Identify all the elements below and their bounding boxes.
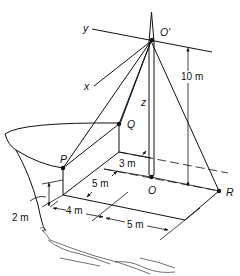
dimension-5m-side: 5 m <box>87 171 117 197</box>
point-r <box>217 189 221 193</box>
deck-depth-label: 3 m <box>119 158 136 169</box>
span-left-label: 4 m <box>66 205 83 216</box>
points <box>61 38 221 193</box>
span-right-label: 5 m <box>127 219 144 230</box>
point-o-prime <box>150 38 154 42</box>
label-r: R <box>226 186 234 198</box>
label-q: Q <box>127 118 135 130</box>
dimension-3m: 3 m <box>104 151 151 177</box>
side-depth-label: 5 m <box>92 178 109 189</box>
mast-height-label: 10 m <box>181 71 203 82</box>
dimension-bottom: 4 m 5 m <box>50 192 200 240</box>
label-p: P <box>60 153 67 165</box>
x-axis: x <box>83 42 150 92</box>
z-axis-label: z <box>140 96 147 108</box>
label-o: O <box>148 184 156 196</box>
mast <box>149 12 154 177</box>
mast-diagram: y x z 10 m 3 m 5 m 2 m <box>0 0 240 276</box>
ground-sketch <box>40 227 175 274</box>
x-axis-label: x <box>83 80 90 92</box>
label-o-prime: O′ <box>160 26 171 38</box>
point-p <box>61 166 65 170</box>
guy-cables <box>63 41 219 191</box>
point-o <box>149 175 153 179</box>
y-axis-label: y <box>82 22 89 34</box>
deck-height-label: 2 m <box>12 212 29 223</box>
point-q <box>117 122 121 126</box>
